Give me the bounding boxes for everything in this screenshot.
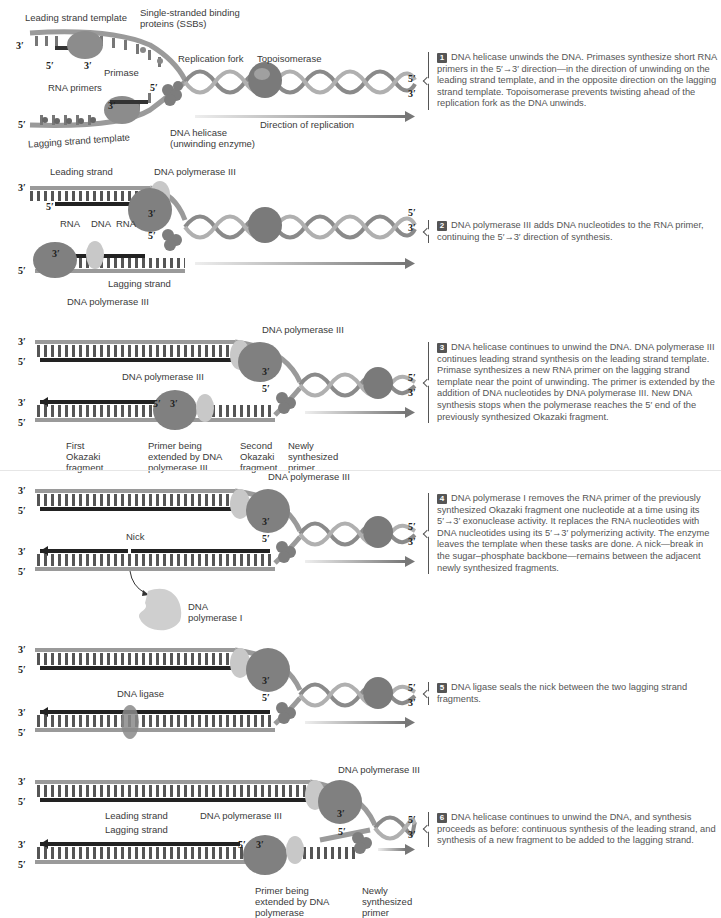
panel-step-4: DNA polymerase III Nick DNA polymerase I… [0,470,721,631]
end-label: 3′ [18,336,26,347]
end-label: 3′ [16,40,24,51]
brace-icon [428,52,435,110]
end-label: 3′ [148,208,156,219]
brace-icon [428,342,435,423]
panel-step-6: DNA polymerase III Leading strand Laggin… [0,750,721,916]
end-label: 5′ [408,521,416,532]
label-primase: Primase [104,67,139,78]
label-direction-of-replication: Direction of replication [260,119,354,130]
end-label: 3′ [108,100,116,111]
end-label: 5′ [46,201,54,212]
step-badge: 5 [437,683,447,693]
label-replication-fork: Replication fork [178,53,243,64]
end-label: 5′ [148,230,156,241]
label-dna-polymerase-i: DNA polymerase I [188,601,248,623]
step-badge: 6 [437,813,447,823]
label-primer-being-extended: Primer being extended by DNA polymerase [255,885,350,918]
label-topoisomerase: Topoisomerase [257,53,321,64]
brace-icon [428,220,435,243]
label-lagging-strand: Lagging strand [105,824,168,835]
end-label: 3′ [408,88,416,99]
end-label: 3′ [262,366,270,377]
end-label: 5′ [18,566,26,577]
end-label: 3′ [18,839,26,850]
end-label: 5′ [408,207,416,218]
step-badge: 1 [437,53,447,63]
end-label: 3′ [408,222,416,233]
end-label: 3′ [170,398,178,409]
panel-step-5: DNA ligase 3′ 5′ 3′ 5′ 3′ 5′ 5′ 3′ 5DNA … [0,630,721,750]
label-newly-synthesized-primer: Newly synthesized primer [288,440,348,473]
end-label: 5′ [18,796,26,807]
end-label: 5′ [408,372,416,383]
label-dna-polymerase-iii-top: DNA polymerase III [262,324,344,335]
panel-step-3: DNA polymerase III DNA polymerase III Fi… [0,320,721,470]
brace-icon [428,682,435,705]
label-leading-strand-template: Leading strand template [25,12,127,23]
end-label: 3′ [408,697,416,708]
label-dna-polymerase-iii-bottom: DNA polymerase III [67,296,149,307]
step-text: DNA ligase seals the nick between the tw… [437,682,687,704]
end-label: 5′ [18,859,26,870]
end-label: 5′ [18,356,26,367]
end-label: 5′ [18,265,26,276]
label-dna-polymerase-iii-top: DNA polymerase III [154,166,236,177]
end-label: 3′ [408,387,416,398]
step-text: DNA helicase continues to unwind the DNA… [437,812,716,845]
end-label: 5′ [150,82,158,93]
end-label: 5′ [262,383,270,394]
end-label: 5′ [153,398,161,409]
end-label: 5′ [408,73,416,84]
step-text: DNA polymerase I removes the RNA primer … [437,493,709,573]
label-dna-polymerase-iii-bottom: DNA polymerase III [200,810,282,821]
label-dna: DNA [91,218,111,229]
label-rna-primers: RNA primers [48,82,102,93]
end-label: 5′ [18,664,26,675]
end-label: 5′ [18,505,26,516]
end-label: 5′ [238,839,246,850]
end-label: 3′ [18,707,26,718]
brace-icon [428,812,435,847]
label-dna-ligase: DNA ligase [117,688,164,699]
end-label: 5′ [18,727,26,738]
replication-fork-diagram-2 [0,165,430,315]
step-description-1: 1DNA helicase unwinds the DNA. Primases … [437,52,717,110]
end-label: 3′ [18,644,26,655]
end-label: 3′ [18,776,26,787]
panel-step-2: Leading strand DNA polymerase III RNA DN… [0,165,721,315]
step-description-5: 5DNA ligase seals the nick between the t… [437,682,717,705]
end-label: 3′ [18,182,26,193]
step-description-6: 6DNA helicase continues to unwind the DN… [437,812,717,847]
end-label: 5′ [18,119,26,130]
label-primer-being-extended: Primer being extended by DNA polymerase … [148,440,238,473]
end-label: 3′ [408,829,416,840]
step-badge: 3 [437,343,447,353]
step-badge: 2 [437,221,447,231]
end-label: 3′ [262,516,270,527]
end-label: 5′ [262,692,270,703]
end-label: 3′ [52,248,60,259]
panel-step-1: Leading strand template Single-stranded … [0,0,721,165]
step-text: DNA helicase continues to unwind the DNA… [437,342,715,422]
label-dna-polymerase-iii-bottom: DNA polymerase III [122,371,204,382]
step-badge: 4 [437,494,447,504]
step-description-2: 2DNA polymerase III adds DNA nucleotides… [437,220,717,243]
label-leading-strand: Leading strand [50,166,113,177]
label-dna-helicase: DNA helicase (unwinding enzyme) [170,127,270,149]
label-rna: RNA [60,218,80,229]
end-label: 3′ [262,675,270,686]
step-text: DNA helicase unwinds the DNA. Primases s… [437,52,717,108]
end-label: 3′ [84,60,92,71]
label-rna: RNA [116,218,136,229]
end-label: 5′ [18,417,26,428]
label-nick: Nick [126,531,144,542]
step-text: DNA polymerase III adds DNA nucleotides … [437,220,704,242]
end-label: 5′ [408,814,416,825]
end-label: 5′ [408,682,416,693]
label-first-okazaki-fragment: First Okazaki fragment [66,440,116,473]
label-newly-synthesized-primer: Newly synthesized primer [362,885,432,918]
end-label: 3′ [18,485,26,496]
end-label: 5′ [338,826,346,837]
label-dna-polymerase-iii: DNA polymerase III [268,471,350,482]
end-label: 3′ [256,839,264,850]
